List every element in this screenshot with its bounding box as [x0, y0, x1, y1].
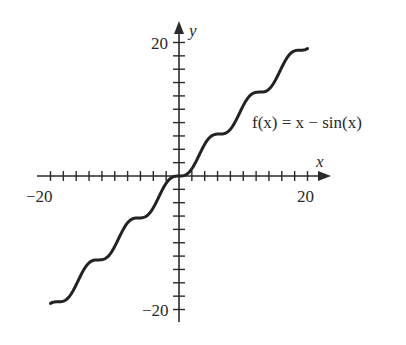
x-max-tick-label: 20: [297, 187, 314, 206]
y-min-tick-label: −20: [142, 301, 169, 320]
y-axis-label: y: [187, 21, 197, 40]
x-axis-arrow-icon: [318, 171, 331, 181]
x-min-tick-label: −20: [26, 187, 53, 206]
function-plot: x y −20 20 20 −20 f(x) = x − sin(x): [0, 0, 406, 345]
y-axis-arrow-icon: [174, 21, 184, 34]
y-max-tick-label: 20: [151, 34, 168, 53]
x-axis-label: x: [315, 152, 324, 171]
function-annotation: f(x) = x − sin(x): [252, 113, 362, 132]
